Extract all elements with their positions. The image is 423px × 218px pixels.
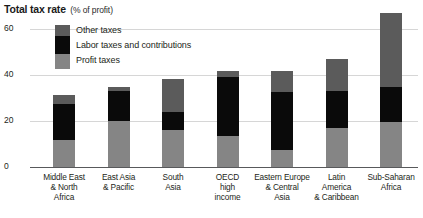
- bar-6-segment-profit-taxes[interactable]: [326, 128, 348, 167]
- bar-3-segment-labor-taxes-and-contributions[interactable]: [162, 112, 184, 129]
- bar-5[interactable]: [271, 0, 293, 167]
- legend-swatch-profit-taxes: [55, 54, 70, 69]
- bar-2-segment-other-taxes[interactable]: [108, 87, 130, 91]
- bar-1-segment-other-taxes[interactable]: [53, 95, 75, 103]
- y-tick-label-60: 60: [4, 24, 26, 33]
- bar-3-segment-other-taxes[interactable]: [162, 79, 184, 112]
- bar-1-segment-labor-taxes-and-contributions[interactable]: [53, 104, 75, 140]
- x-category-label-1-line-3: Africa: [27, 192, 101, 202]
- bar-7-segment-profit-taxes[interactable]: [380, 122, 402, 167]
- bar-2-segment-profit-taxes[interactable]: [108, 121, 130, 167]
- y-tick-label-0: 0: [4, 162, 26, 171]
- legend-swatch-labor-taxes-and-contributions: [55, 36, 70, 54]
- legend-item-labor-taxes: Labor taxes and contributions: [76, 40, 191, 51]
- bar-4-segment-other-taxes[interactable]: [217, 71, 239, 77]
- bar-5-segment-profit-taxes[interactable]: [271, 150, 293, 167]
- x-axis-baseline: [30, 167, 418, 168]
- x-category-label-7-line-1: Sub-Saharan: [354, 172, 423, 182]
- bar-4-segment-profit-taxes[interactable]: [217, 136, 239, 167]
- bar-7-segment-labor-taxes-and-contributions[interactable]: [380, 87, 402, 121]
- x-category-label-6-line-3: & Caribbean: [300, 192, 374, 202]
- bar-6-segment-labor-taxes-and-contributions[interactable]: [326, 91, 348, 127]
- legend-item-profit-taxes: Profit taxes: [76, 55, 120, 66]
- legend-item-other-taxes: Other taxes: [76, 25, 121, 36]
- bar-5-segment-labor-taxes-and-contributions[interactable]: [271, 92, 293, 150]
- x-category-label-7: Sub-SaharanAfrica: [354, 172, 423, 192]
- bar-4[interactable]: [217, 0, 239, 167]
- bar-3-segment-profit-taxes[interactable]: [162, 130, 184, 167]
- chart-container: Total tax rate (% of profit) 0204060Midd…: [0, 0, 423, 218]
- bar-6[interactable]: [326, 0, 348, 167]
- bar-3[interactable]: [162, 0, 184, 167]
- bar-5-segment-other-taxes[interactable]: [271, 71, 293, 92]
- y-tick-label-40: 40: [4, 70, 26, 79]
- bar-7[interactable]: [380, 0, 402, 167]
- bar-7-segment-other-taxes[interactable]: [380, 13, 402, 88]
- bar-2-segment-labor-taxes-and-contributions[interactable]: [108, 91, 130, 120]
- legend-swatch-other-taxes: [55, 25, 70, 36]
- y-tick-label-20: 20: [4, 116, 26, 125]
- bar-1-segment-profit-taxes[interactable]: [53, 140, 75, 167]
- bar-6-segment-other-taxes[interactable]: [326, 59, 348, 91]
- bar-4-segment-labor-taxes-and-contributions[interactable]: [217, 77, 239, 135]
- x-category-label-7-line-2: Africa: [354, 182, 423, 192]
- legend-swatch-stack: [55, 25, 70, 69]
